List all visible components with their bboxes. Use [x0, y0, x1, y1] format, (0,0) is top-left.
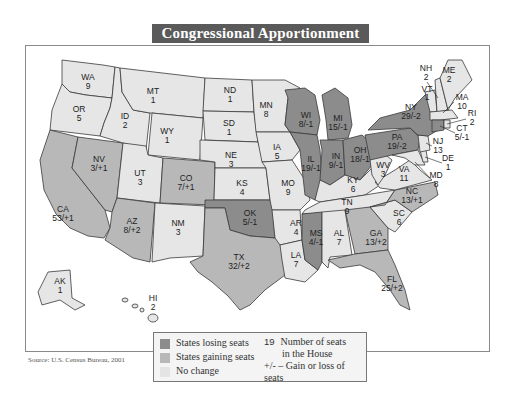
svg-text:8: 8 — [264, 109, 269, 119]
svg-text:4: 4 — [240, 187, 245, 197]
svg-text:1: 1 — [446, 162, 451, 172]
state-fl — [328, 250, 410, 310]
losing-swatch — [160, 339, 170, 349]
svg-text:9/-1: 9/-1 — [329, 160, 344, 170]
svg-text:1: 1 — [228, 94, 233, 104]
svg-text:3: 3 — [381, 169, 386, 179]
svg-text:1: 1 — [425, 92, 430, 102]
svg-text:7/+1: 7/+1 — [178, 182, 195, 192]
svg-text:1: 1 — [165, 135, 170, 145]
svg-text:19/-2: 19/-2 — [387, 141, 407, 151]
svg-text:8: 8 — [434, 179, 439, 189]
svg-text:2: 2 — [470, 117, 475, 127]
state-ma — [430, 110, 458, 120]
legend-no-change: No change — [160, 364, 219, 377]
svg-text:25/+2: 25/+2 — [381, 283, 403, 293]
svg-text:53/+1: 53/+1 — [52, 213, 74, 223]
svg-text:2: 2 — [424, 72, 429, 82]
svg-text:9: 9 — [345, 206, 350, 216]
svg-text:15/-1: 15/-1 — [328, 122, 348, 132]
svg-text:5/-1: 5/-1 — [455, 132, 470, 142]
source-note: Source: U.S. Census Bureau, 2001 — [28, 356, 125, 364]
gaining-swatch — [160, 353, 170, 363]
svg-text:8/+2: 8/+2 — [124, 225, 141, 235]
svg-text:7: 7 — [337, 237, 342, 247]
svg-text:32/+2: 32/+2 — [228, 261, 250, 271]
state-ct — [432, 120, 444, 132]
svg-text:11: 11 — [400, 173, 409, 183]
svg-text:9: 9 — [286, 187, 291, 197]
svg-text:6: 6 — [397, 217, 402, 227]
svg-text:2: 2 — [123, 120, 128, 130]
svg-text:1: 1 — [227, 127, 232, 137]
svg-text:5: 5 — [77, 113, 82, 123]
svg-text:18/-1: 18/-1 — [350, 154, 370, 164]
legend-key: 19 Number of seats in the House +/- – Ga… — [264, 336, 366, 384]
svg-text:7: 7 — [294, 259, 299, 269]
svg-text:13/+1: 13/+1 — [401, 195, 423, 205]
svg-text:1: 1 — [58, 285, 63, 295]
svg-text:2: 2 — [447, 74, 452, 84]
svg-text:3: 3 — [176, 227, 181, 237]
legend-gaining: States gaining seats — [160, 350, 254, 363]
svg-text:10: 10 — [457, 101, 467, 111]
svg-text:29/-2: 29/-2 — [401, 111, 421, 121]
svg-text:13/+2: 13/+2 — [365, 237, 387, 247]
svg-text:3: 3 — [138, 177, 143, 187]
svg-text:5/-1: 5/-1 — [243, 217, 258, 227]
svg-text:2: 2 — [151, 302, 156, 312]
svg-text:4/-1: 4/-1 — [309, 237, 324, 247]
svg-text:3/+1: 3/+1 — [91, 163, 108, 173]
legend-losing: States losing seats — [160, 336, 249, 349]
no-change-swatch — [160, 367, 170, 377]
svg-text:19/-1: 19/-1 — [301, 163, 321, 173]
svg-text:9: 9 — [86, 81, 91, 91]
svg-text:3: 3 — [229, 159, 234, 169]
svg-text:4: 4 — [294, 227, 299, 237]
svg-text:6: 6 — [351, 184, 356, 194]
map-legend: States losing seats States gaining seats… — [153, 332, 367, 382]
state-nj — [418, 135, 430, 152]
state-wy — [148, 113, 203, 160]
svg-text:1: 1 — [151, 95, 156, 105]
svg-text:8/-1: 8/-1 — [299, 119, 314, 129]
svg-text:5: 5 — [275, 151, 280, 161]
